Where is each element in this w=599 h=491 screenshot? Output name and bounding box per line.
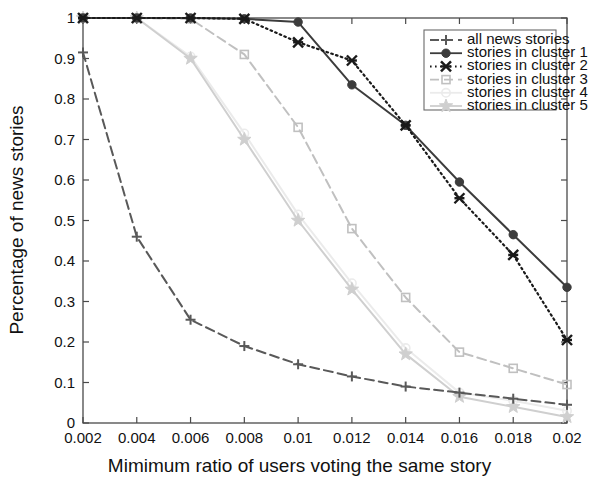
data-point-marker	[509, 230, 517, 238]
chart-figure: 0.0020.0040.0060.0080.010.0120.0140.0160…	[0, 0, 599, 491]
x-axis-tick-label: 0.016	[441, 429, 479, 446]
x-axis-tick-label: 0.008	[226, 429, 264, 446]
y-axis-tick-label: 0.3	[54, 293, 75, 310]
y-axis-tick-label: 0.8	[54, 90, 75, 107]
legend-label: stories in cluster 5	[467, 96, 588, 113]
x-axis-tick-label: 0.018	[494, 429, 532, 446]
y-axis-tick-label: 1	[67, 9, 75, 26]
x-axis-tick-label: 0.002	[64, 429, 102, 446]
data-point-marker	[348, 81, 356, 89]
y-axis-title: Percentage of news stories	[6, 105, 28, 334]
data-point-marker	[563, 283, 571, 291]
y-axis-tick-label: 0.7	[54, 131, 75, 148]
x-axis-title: Mimimum ratio of users voting the same s…	[0, 455, 599, 477]
x-axis-tick-label: 0.01	[284, 429, 313, 446]
data-point-marker	[294, 18, 302, 26]
line-chart-plot: 0.0020.0040.0060.0080.010.0120.0140.0160…	[0, 0, 599, 491]
y-axis-title-wrap: Percentage of news stories	[0, 0, 34, 440]
x-axis-tick-label: 0.014	[387, 429, 425, 446]
x-axis-tick-label: 0.006	[172, 429, 210, 446]
y-axis-tick-label: 0.9	[54, 50, 75, 67]
x-axis-tick-label: 0.012	[333, 429, 371, 446]
x-axis-tick-label: 0.004	[118, 429, 156, 446]
y-axis-tick-label: 0.4	[54, 252, 75, 269]
data-point-marker	[455, 178, 463, 186]
y-axis-tick-label: 0.5	[54, 212, 75, 229]
y-axis-tick-label: 0	[67, 414, 75, 431]
data-point-marker	[442, 49, 450, 57]
y-axis-tick-label: 0.2	[54, 333, 75, 350]
y-axis-tick-label: 0.1	[54, 374, 75, 391]
x-axis-tick-label: 0.02	[552, 429, 581, 446]
y-axis-tick-label: 0.6	[54, 171, 75, 188]
chart-legend: all news storiesstories in cluster 1stor…	[424, 30, 588, 113]
